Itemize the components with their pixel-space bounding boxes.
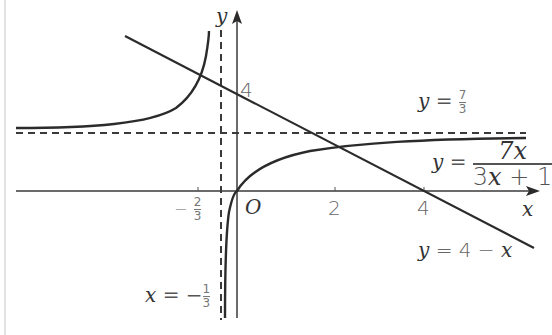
denominator-var: x [488, 163, 502, 191]
vertical-asymptote-label: x = − 1 3 [145, 283, 210, 310]
line-equation-label: y = 4 − x [418, 240, 512, 260]
horizontal-asymptote-label: y = 7 3 [418, 89, 466, 116]
denominator: 3 [459, 103, 467, 116]
origin-label: O [245, 197, 261, 217]
numerator: 7 [459, 89, 467, 102]
curve-equation-label: y = 7x 3x + 1 [432, 139, 552, 189]
equals: = [429, 89, 458, 113]
lhs: y [418, 89, 429, 113]
rhs: x [501, 238, 512, 262]
lhs: y [432, 150, 443, 174]
x-tick-label-4: 4 [417, 198, 430, 218]
numerator-text: 7x [498, 137, 527, 165]
diagram-canvas: y x O 4 2 4 − 2 3 y = 7 3 y = 7x 3x + 1 … [0, 0, 552, 335]
lhs: x [145, 283, 156, 307]
equals: = [443, 150, 472, 174]
equals: = − [156, 283, 202, 307]
fraction: 1 3 [203, 283, 211, 310]
denominator: 3x + 1 [473, 165, 552, 189]
numerator: 7x [498, 139, 527, 163]
lhs: y [418, 238, 429, 262]
numerator: 1 [203, 283, 211, 296]
x-tick-label-2: 2 [328, 198, 341, 218]
x-axis-label: x [522, 199, 533, 219]
x-tick-label-neg-two-thirds: − 2 3 [174, 196, 201, 223]
middle: = 4 − [429, 238, 501, 262]
denominator-const: + 1 [502, 163, 552, 191]
denominator-coef: 3 [473, 163, 488, 191]
denominator: 3 [203, 297, 211, 310]
fraction: 2 3 [194, 196, 202, 223]
y-tick-label-4: 4 [240, 80, 253, 100]
y-axis-label: y [216, 6, 227, 26]
fraction: 7x 3x + 1 [473, 139, 552, 189]
denominator: 3 [194, 210, 202, 223]
fraction: 7 3 [459, 89, 467, 116]
numerator: 2 [194, 196, 202, 209]
minus-sign: − [174, 200, 187, 219]
hyperbola-left-branch [16, 31, 209, 128]
